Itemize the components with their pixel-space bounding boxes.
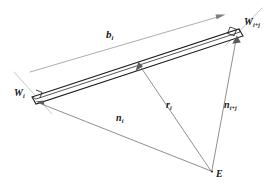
label-w-end: Wi+j [244,17,260,28]
n-i-shaft [39,103,211,171]
b-vector-arrowhead [216,15,226,20]
vector-geometry-figure: bi Wi Wi+j ri ni ni+j E [0,0,272,187]
label-w-start: Wi [14,88,25,99]
label-n-end: ni+j [224,100,237,111]
point-e-dot [211,170,213,172]
position-vectors [36,36,241,173]
figure-canvas [0,0,272,187]
label-n-start: ni [116,113,123,124]
label-origin-point: E [216,169,223,179]
r-i-shaft [140,66,211,171]
label-b-vector: bi [106,29,114,42]
label-r-vector: ri [166,100,172,111]
